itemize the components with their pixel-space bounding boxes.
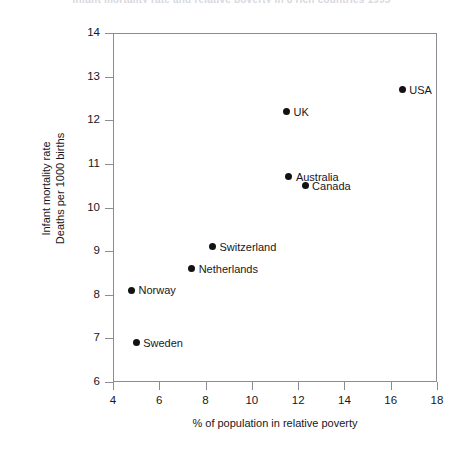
y-axis-tick-label: 7 <box>76 331 100 343</box>
y-axis-tick-label: 6 <box>76 375 100 387</box>
y-axis-title-line2: Deaths per 1000 births <box>53 89 67 289</box>
x-axis-tick <box>206 382 207 390</box>
x-axis-tick-label: 6 <box>144 394 174 406</box>
y-axis-tick <box>105 208 113 209</box>
y-axis-tick <box>105 382 113 383</box>
y-axis-tick <box>105 251 113 252</box>
data-point[interactable] <box>133 339 140 346</box>
chart-title: Infant mortality rate and relative pover… <box>0 0 463 3</box>
y-axis-tick <box>105 33 113 34</box>
x-axis-tick-label: 18 <box>422 394 452 406</box>
x-axis-tick <box>113 382 114 390</box>
x-axis-tick <box>344 382 345 390</box>
y-axis-tick-label: 8 <box>76 288 100 300</box>
x-axis-tick <box>159 382 160 390</box>
y-axis-tick <box>105 120 113 121</box>
data-point-label: Switzerland <box>220 241 277 253</box>
x-axis-tick <box>437 382 438 390</box>
data-point-label: USA <box>409 84 432 96</box>
y-axis-tick <box>105 77 113 78</box>
y-axis-title: Infant mortality rate Deaths per 1000 bi… <box>40 89 67 289</box>
y-axis-tick <box>105 295 113 296</box>
x-axis-tick-label: 4 <box>98 394 128 406</box>
y-axis-tick-label: 11 <box>76 157 100 169</box>
y-axis-tick <box>105 338 113 339</box>
x-axis-tick-label: 10 <box>237 394 267 406</box>
chart-page: Infant mortality rate and relative pover… <box>0 0 463 450</box>
y-axis-tick-label: 14 <box>76 26 100 38</box>
y-axis-title-line1: Infant mortality rate <box>40 89 54 289</box>
y-axis-tick <box>105 164 113 165</box>
x-axis-tick-label: 8 <box>191 394 221 406</box>
x-axis-tick-label: 14 <box>329 394 359 406</box>
x-axis-title: % of population in relative poverty <box>113 417 437 429</box>
data-point-label: Sweden <box>143 337 183 349</box>
x-axis-tick-label: 16 <box>376 394 406 406</box>
x-axis-tick <box>252 382 253 390</box>
data-point[interactable] <box>302 182 309 189</box>
y-axis-tick-label: 9 <box>76 244 100 256</box>
x-axis-tick-label: 12 <box>283 394 313 406</box>
data-point-label: UK <box>294 106 309 118</box>
data-point-label: Netherlands <box>199 263 258 275</box>
y-axis-tick-label: 13 <box>76 70 100 82</box>
plot-area <box>113 33 437 382</box>
x-axis-tick <box>391 382 392 390</box>
y-axis-tick-label: 10 <box>76 201 100 213</box>
data-point[interactable] <box>128 287 135 294</box>
data-point[interactable] <box>399 86 406 93</box>
data-point-label: Norway <box>139 284 176 296</box>
x-axis-tick <box>298 382 299 390</box>
y-axis-tick-label: 12 <box>76 113 100 125</box>
data-point-label: Australia <box>296 171 339 183</box>
